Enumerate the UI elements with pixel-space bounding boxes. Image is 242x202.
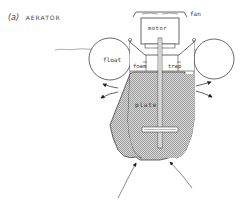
outflow-arrow-left-1	[103, 84, 118, 88]
inflow-arrow-left	[118, 163, 136, 198]
inflow-arrow-right	[170, 162, 192, 188]
outflow-arrow-right-1	[196, 82, 211, 86]
plate-label: plate	[135, 101, 157, 109]
float-label: float	[103, 56, 121, 63]
figure-label: (a) AERATOR	[8, 13, 61, 22]
foam-label: foam	[133, 63, 147, 69]
water-surface-left	[55, 49, 92, 50]
trap-label: trap	[168, 63, 181, 70]
float-right	[194, 39, 234, 79]
aerator-diagram: (a) AERATOR float foam trap motor fan p	[0, 0, 242, 202]
outflow-arrow-left-2	[101, 92, 118, 98]
outflow-arrow-right-2	[196, 91, 212, 97]
motor-label: motor	[148, 25, 167, 31]
fan-label: fan	[190, 10, 201, 17]
fan	[133, 12, 187, 17]
